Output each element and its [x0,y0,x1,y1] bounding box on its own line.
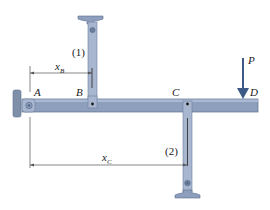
label-a: A [33,86,41,98]
label-member-2: (2) [165,145,178,158]
label-b: B [76,86,83,98]
label-c: C [172,86,180,98]
diagram-canvas: A B C D P (1) (2) xB xC [0,0,270,210]
pin-a [22,99,35,112]
label-member-1: (1) [72,46,85,59]
label-xc: xC [101,151,112,166]
member-1-joint-b [88,96,97,108]
arrow-down-icon [237,88,249,99]
label-d: D [249,86,258,98]
wall-support-left [13,90,21,117]
pin-c-icon [186,103,189,106]
pin-b-icon [91,103,94,106]
rigid-bar-abcd [22,99,258,112]
pin-icon [90,27,95,32]
label-p: P [247,54,255,66]
